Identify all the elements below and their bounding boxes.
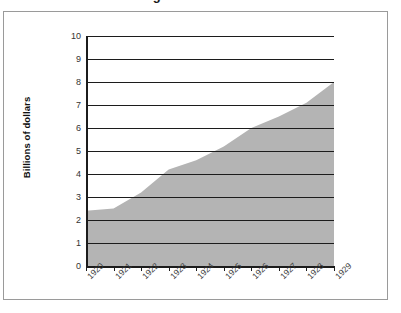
x-tick-label-1929: 1929 [333,261,353,281]
gridline-4 [86,174,334,175]
y-tick-label-9: 9 [76,54,81,64]
y-axis-line [86,36,88,268]
gridline-6 [86,128,334,129]
x-tick-1921 [114,266,115,271]
area-chart: Billions of dollars 012345678910 1920192… [4,12,389,301]
cropped-title-text: Selling [118,0,161,3]
plot-region: 012345678910 192019211922192319241925192… [86,36,334,266]
gridline-7 [86,105,334,106]
gridline-8 [86,82,334,83]
y-tick-label-4: 4 [76,169,81,179]
x-tick-1923 [169,266,170,271]
x-tick-1925 [224,266,225,271]
y-tick-label-3: 3 [76,192,81,202]
cropped-title-remnant: Selling [0,0,401,9]
y-tick-label-8: 8 [76,77,81,87]
gridline-5 [86,151,334,152]
gridline-1 [86,243,334,244]
y-tick-label-6: 6 [76,123,81,133]
y-tick-label-5: 5 [76,146,81,156]
gridline-3 [86,197,334,198]
y-tick-label-2: 2 [76,215,81,225]
figure-frame: Billions of dollars 012345678910 1920192… [3,11,388,300]
y-tick-label-10: 10 [71,31,81,41]
y-tick-label-0: 0 [76,261,81,271]
y-tick-label-7: 7 [76,100,81,110]
x-tick-1927 [279,266,280,271]
gridline-9 [86,59,334,60]
y-tick-label-1: 1 [76,238,81,248]
gridline-10 [86,36,334,37]
gridline-2 [86,220,334,221]
y-axis-title: Billions of dollars [21,83,32,193]
